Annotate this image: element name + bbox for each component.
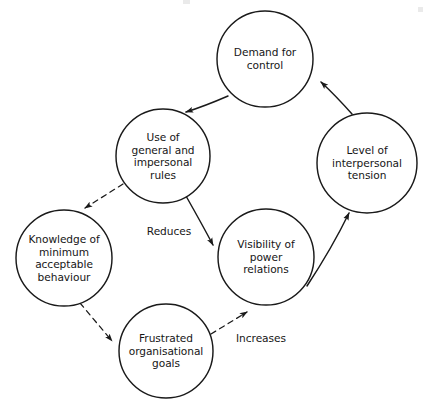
edge-tension-to-demand	[321, 82, 352, 114]
node-circle-visibility-of-power-relations[interactable]	[218, 209, 314, 305]
edge-knowledge-to-frustrated	[80, 303, 112, 341]
node-circle-level-of-interpersonal-tension[interactable]	[317, 113, 417, 213]
edge-label-frustrated-to-visibility: Increases	[236, 332, 286, 345]
nodes-layer	[16, 11, 417, 398]
causal-loop-diagram: ReducesIncreasesDemand for controlUse of…	[0, 0, 425, 412]
edge-frustrated-to-visibility	[211, 312, 247, 334]
node-circle-use-of-general-and-impersonal-rules[interactable]	[116, 109, 210, 203]
node-circle-frustrated-organisational-goals[interactable]	[119, 304, 213, 398]
edge-label-rules-to-visibility: Reduces	[147, 225, 191, 238]
edges-layer	[80, 82, 352, 341]
node-circle-knowledge-of-minimum-acceptable-behaviour[interactable]	[16, 210, 112, 306]
diagram-canvas	[0, 0, 425, 412]
edge-demand-to-rules	[186, 96, 228, 112]
edge-rules-to-visibility	[186, 196, 213, 245]
node-circle-demand-for-control[interactable]	[217, 11, 313, 107]
edge-rules-to-knowledge	[85, 184, 123, 208]
